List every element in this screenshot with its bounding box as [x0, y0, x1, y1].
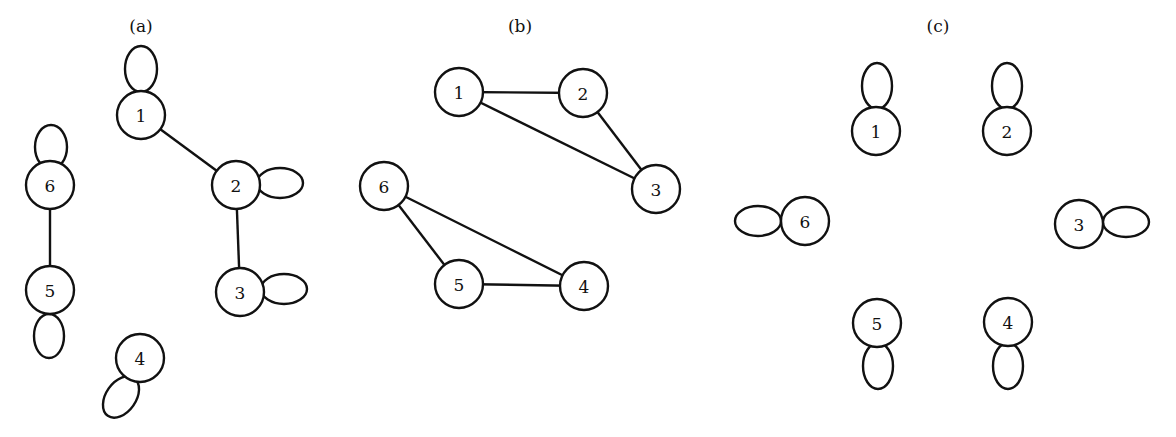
graph-diagram: (a)123456(b)123456(c)123456	[0, 0, 1176, 437]
panel-b: (b)123456	[360, 16, 680, 310]
node-label: 6	[800, 212, 811, 232]
node-label: 6	[45, 176, 56, 196]
self-loop-1	[125, 46, 157, 92]
node-4: 4	[116, 334, 164, 382]
panel-title: (c)	[927, 16, 950, 36]
node-label: 4	[579, 277, 590, 297]
node-label: 5	[45, 281, 56, 301]
node-3: 3	[216, 268, 264, 316]
node-6: 6	[781, 197, 829, 245]
node-label: 2	[1002, 122, 1013, 142]
node-2: 2	[212, 161, 260, 209]
self-loop-5	[863, 343, 893, 389]
self-loop-1	[862, 63, 892, 109]
node-1: 1	[852, 107, 900, 155]
node-label: 6	[379, 177, 390, 197]
node-6: 6	[360, 162, 408, 210]
node-label: 1	[871, 122, 882, 142]
node-1: 1	[435, 68, 483, 116]
node-5: 5	[853, 299, 901, 347]
self-loop-2	[257, 168, 303, 198]
self-loop-6	[735, 206, 781, 236]
node-label: 4	[1003, 313, 1014, 333]
node-label: 1	[136, 106, 147, 126]
node-3: 3	[632, 165, 680, 213]
node-4: 4	[984, 298, 1032, 346]
node-label: 3	[1074, 215, 1085, 235]
panel-title: (b)	[508, 16, 532, 36]
node-5: 5	[26, 266, 74, 314]
self-loop-5	[34, 314, 64, 358]
edge-1-3	[459, 92, 656, 189]
node-5: 5	[435, 260, 483, 308]
panel-title: (a)	[129, 16, 152, 36]
self-loop-3	[1103, 207, 1149, 237]
panel-c: (c)123456	[735, 16, 1149, 389]
node-6: 6	[26, 161, 74, 209]
node-label: 4	[135, 349, 146, 369]
self-loop-3	[261, 274, 307, 304]
node-label: 5	[872, 314, 883, 334]
node-label: 5	[454, 275, 465, 295]
node-2: 2	[559, 69, 607, 117]
node-label: 2	[231, 176, 242, 196]
self-loop-4	[993, 343, 1023, 389]
node-label: 1	[454, 83, 465, 103]
node-label: 3	[651, 180, 662, 200]
node-label: 3	[235, 283, 246, 303]
node-3: 3	[1055, 200, 1103, 248]
node-4: 4	[560, 262, 608, 310]
edge-6-4	[384, 186, 584, 286]
self-loop-2	[992, 63, 1022, 109]
panel-a: (a)123456	[26, 16, 307, 424]
node-1: 1	[117, 91, 165, 139]
node-label: 2	[578, 84, 589, 104]
node-2: 2	[983, 107, 1031, 155]
